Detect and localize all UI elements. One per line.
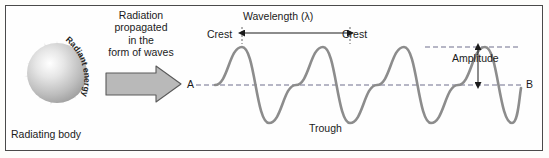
crest-label-right: Crest [342, 28, 367, 40]
amplitude-label: Amplitude [452, 52, 499, 64]
wave-diagram [0, 0, 549, 158]
figure-canvas: Radiant energy Radiation propagated in t… [0, 0, 549, 158]
axis-label-a: A [187, 78, 194, 90]
crest-label-left: Crest [207, 28, 232, 40]
axis-label-b: B [526, 78, 533, 90]
wavelength-label: Wavelength (λ) [243, 10, 313, 22]
trough-label: Trough [309, 122, 342, 134]
